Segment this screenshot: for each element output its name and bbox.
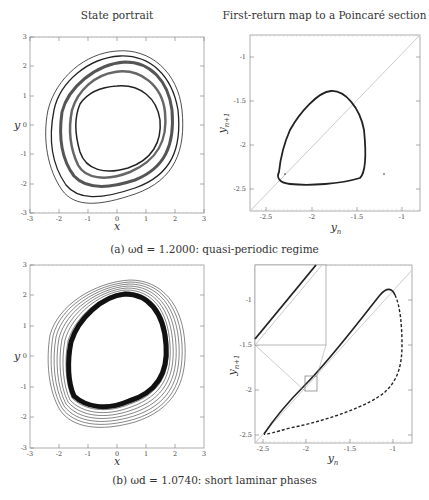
svg-text:-3: -3 [21, 209, 27, 217]
svg-text:-2: -2 [240, 141, 246, 149]
svg-text:-2: -2 [21, 180, 27, 188]
svg-text:1: 1 [144, 450, 148, 458]
svg-text:-2.5: -2.5 [233, 185, 246, 193]
svg-text:3: 3 [202, 215, 206, 223]
svg-text:-1.5: -1.5 [233, 97, 246, 105]
plot-b-state-portrait: -3-2-1 0123 321 0-1-2-3 x y [13, 261, 206, 468]
svg-text:2: 2 [23, 291, 27, 299]
svg-text:0: 0 [23, 121, 27, 129]
x-axis-label-b-left: x [114, 455, 121, 468]
svg-text:-3: -3 [27, 450, 33, 458]
svg-text:-2: -2 [246, 386, 252, 394]
svg-text:-1: -1 [21, 150, 27, 158]
svg-text:-1.5: -1.5 [344, 445, 357, 453]
svg-text:-1: -1 [390, 445, 396, 453]
svg-text:1: 1 [144, 215, 148, 223]
svg-text:-1: -1 [246, 296, 252, 304]
svg-text:2: 2 [173, 450, 177, 458]
caption-b: (b) ωd = 1.0740: short laminar phases [0, 474, 429, 486]
svg-text:-2: -2 [56, 450, 62, 458]
x-axis-label-a-left: x [114, 220, 121, 233]
svg-text:1: 1 [23, 322, 27, 330]
inset-zoom [255, 265, 326, 391]
svg-text:2: 2 [173, 215, 177, 223]
svg-text:-1.5: -1.5 [351, 213, 364, 221]
svg-text:-1: -1 [85, 215, 91, 223]
axis-ticks-a-right: -1-1.5 -2-2.5 -2.5-2 -1.5-1 [233, 53, 420, 221]
svg-text:3: 3 [23, 33, 27, 41]
svg-text:-3: -3 [21, 444, 27, 452]
y-axis-label-a-right: yn+1 [216, 112, 231, 134]
svg-text:3: 3 [202, 450, 206, 458]
y-axis-label-b-left: y [13, 350, 21, 363]
caption-a: (a) ωd = 1.2000: quasi-periodic regime [0, 243, 429, 255]
svg-text:0: 0 [23, 352, 27, 360]
svg-text:3: 3 [23, 261, 27, 269]
svg-text:-1: -1 [21, 383, 27, 391]
svg-text:-2: -2 [303, 445, 309, 453]
svg-text:-3: -3 [27, 215, 33, 223]
svg-text:-2.5: -2.5 [239, 431, 252, 439]
plot-a-state-portrait: -3-2-1 0123 321 0-1-2-3 x y [13, 33, 206, 233]
svg-text:-2: -2 [21, 413, 27, 421]
svg-text:-1: -1 [399, 213, 405, 221]
trajectory-loops-a [46, 51, 183, 204]
svg-text:1: 1 [23, 92, 27, 100]
diagonal-line [250, 35, 420, 211]
plot-b-return-map: -1-1.5 -2-2.5 -2.5-2 -1.5-1 yn yn+1 [226, 265, 412, 467]
svg-text:-1.5: -1.5 [239, 341, 252, 349]
svg-text:-1: -1 [85, 450, 91, 458]
plot-a-return-map: -1-1.5 -2-2.5 -2.5-2 -1.5-1 yn yn+1 [216, 35, 420, 236]
isolated-point [284, 173, 286, 175]
y-axis-label-a-left: y [13, 119, 21, 132]
isolated-point [383, 173, 385, 175]
svg-text:-2: -2 [56, 215, 62, 223]
svg-text:2: 2 [23, 62, 27, 70]
x-axis-label-b-right: yn [327, 452, 339, 467]
svg-text:-2.5: -2.5 [257, 445, 270, 453]
svg-text:-1: -1 [240, 53, 246, 61]
svg-text:-2.5: -2.5 [260, 213, 273, 221]
y-axis-label-b-right: yn+1 [226, 354, 241, 376]
x-axis-label-a-right: yn [330, 221, 342, 236]
svg-text:-2: -2 [309, 213, 315, 221]
